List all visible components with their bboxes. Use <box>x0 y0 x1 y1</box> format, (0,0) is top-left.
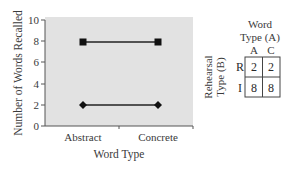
x-tick-label-abstract: Abstract <box>64 131 101 143</box>
table-row-factor-line1: Rehearsal <box>202 55 214 98</box>
square-marker <box>80 39 87 46</box>
table-cell-i-a: 8 <box>251 81 257 95</box>
table-col-factor-line2: Type (A) <box>240 31 280 44</box>
y-axis-title: Number of Words Recalled <box>12 10 24 136</box>
table-row-label-i: I <box>238 81 242 95</box>
table-row-factor-line2: Type (B) <box>214 57 227 97</box>
y-tick-label-0: 0 <box>34 120 40 132</box>
x-axis-title: Word Type <box>94 148 145 161</box>
table-col-header-c: C <box>267 44 274 56</box>
figure: 10 8 6 4 2 0 Number of Words Recalled Ab… <box>0 0 288 171</box>
y-tick-label-6: 6 <box>34 56 40 68</box>
table-col-header-a: A <box>250 44 258 56</box>
means-table: Word Type (A) A C Rehearsal Type (B) R I… <box>202 18 280 99</box>
y-tick-label-10: 10 <box>28 14 40 26</box>
table-cell-r-c: 2 <box>268 60 274 74</box>
y-ticks <box>41 20 45 126</box>
square-marker <box>155 39 162 46</box>
table-row-label-r: R <box>236 60 244 74</box>
x-tick-label-concrete: Concrete <box>138 131 178 143</box>
y-tick-label-8: 8 <box>34 35 40 47</box>
y-tick-label-4: 4 <box>34 78 40 90</box>
table-cell-i-c: 8 <box>268 81 274 95</box>
table-cell-r-a: 2 <box>251 60 257 74</box>
plot-area <box>45 17 193 126</box>
table-col-factor-line1: Word <box>248 18 273 30</box>
y-tick-label-2: 2 <box>34 99 40 111</box>
